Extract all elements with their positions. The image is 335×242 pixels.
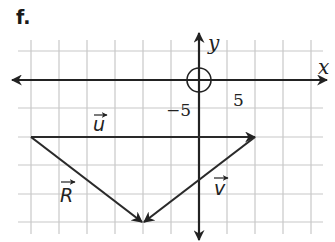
svg-text:u: u [93, 113, 105, 135]
y-axis-label: y [207, 31, 220, 55]
x-axis-label: x [318, 55, 329, 79]
tick-label-positive-5: 5 [233, 90, 244, 110]
vector-v-label: v [214, 177, 228, 199]
svg-text:R: R [60, 184, 73, 206]
tick-label-negative-5: −5 [166, 100, 191, 120]
vector-diagram: x y −5 5 u v R [0, 0, 335, 242]
vector-R-label: R [60, 182, 75, 206]
vector-u-label: u [93, 113, 107, 135]
svg-text:v: v [214, 177, 226, 199]
